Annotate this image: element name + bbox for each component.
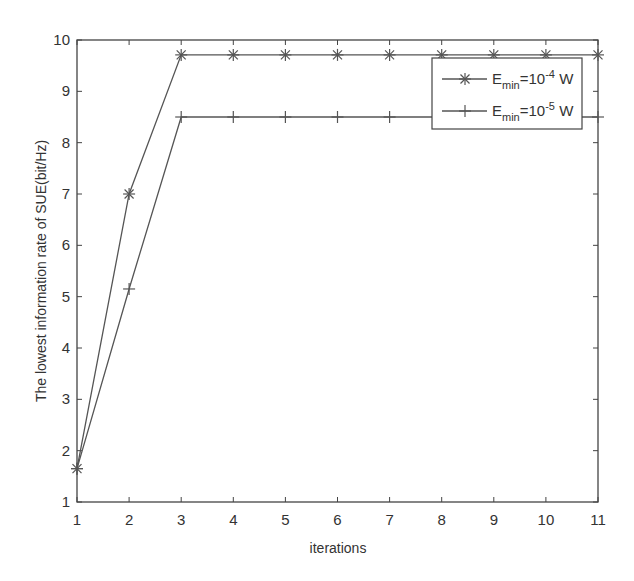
plus-marker-icon xyxy=(175,111,187,123)
asterisk-marker-icon xyxy=(384,49,396,61)
y-tick-label: 8 xyxy=(62,134,70,151)
asterisk-marker-icon xyxy=(592,49,604,61)
y-tick-label: 1 xyxy=(62,493,70,510)
x-tick-label: 8 xyxy=(438,511,446,528)
x-tick-label: 6 xyxy=(333,511,341,528)
y-tick-label: 6 xyxy=(62,236,70,253)
asterisk-marker-icon xyxy=(175,49,187,61)
plus-marker-icon xyxy=(123,283,135,295)
asterisk-marker-icon xyxy=(279,49,291,61)
y-tick-label: 9 xyxy=(62,82,70,99)
y-tick-label: 4 xyxy=(62,339,70,356)
x-tick-label: 3 xyxy=(177,511,185,528)
plus-marker-icon xyxy=(332,111,344,123)
x-tick-label: 5 xyxy=(281,511,289,528)
plus-marker-icon xyxy=(384,111,396,123)
line-chart: 123456789101112345678910 iterations The … xyxy=(0,0,634,581)
y-tick-label: 10 xyxy=(53,31,70,48)
x-tick-label: 7 xyxy=(385,511,393,528)
y-tick-label: 5 xyxy=(62,288,70,305)
asterisk-marker-icon xyxy=(123,188,135,200)
x-tick-label: 1 xyxy=(73,511,81,528)
x-tick-label: 10 xyxy=(538,511,555,528)
x-tick-label: 4 xyxy=(229,511,237,528)
x-tick-label: 9 xyxy=(490,511,498,528)
asterisk-marker-icon xyxy=(459,73,471,85)
x-tick-label: 11 xyxy=(590,511,606,528)
asterisk-marker-icon xyxy=(227,49,239,61)
plus-marker-icon xyxy=(592,111,604,123)
x-axis-label: iterations xyxy=(310,540,367,556)
y-tick-label: 3 xyxy=(62,390,70,407)
asterisk-marker-icon xyxy=(332,49,344,61)
y-axis-label: The lowest information rate of SUE(bit/H… xyxy=(33,140,49,402)
series-1 xyxy=(71,111,604,475)
y-tick-label: 7 xyxy=(62,185,70,202)
plus-marker-icon xyxy=(227,111,239,123)
y-tick-label: 2 xyxy=(62,442,70,459)
x-tick-label: 2 xyxy=(125,511,133,528)
plus-marker-icon xyxy=(279,111,291,123)
legend: Emin=10-4 WEmin=10-5 W xyxy=(432,58,582,129)
